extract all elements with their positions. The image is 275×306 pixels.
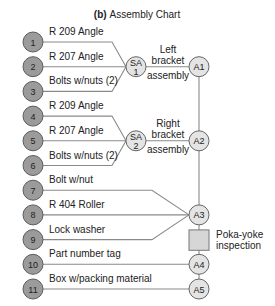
component-number: 10 (28, 260, 38, 270)
chart-title: (b)Assembly Chart (94, 9, 181, 20)
assembly-a4: A4 (189, 254, 209, 274)
component-number: 4 (30, 112, 35, 122)
assembly-label: A4 (193, 260, 204, 270)
component-number: 8 (30, 210, 35, 220)
component-number: 11 (28, 285, 37, 295)
poka-yoke-inspection: Poka-yokeinspection (189, 229, 264, 251)
subassembly-sa2: SA2Rightbracketassembly (126, 118, 189, 155)
component-4: 4R 209 Angle (23, 100, 104, 126)
component-1: 1R 209 Angle (23, 26, 104, 52)
chart-title-text: Assembly Chart (110, 9, 181, 20)
subassembly-caption-line: Left (160, 44, 177, 55)
chart-title-prefix: (b) (94, 9, 107, 20)
component-6: 6Bolts w/nuts (2) (23, 150, 118, 176)
component-label: R 207 Angle (49, 125, 104, 136)
component-2: 2R 207 Angle (23, 51, 104, 77)
subassembly-caption-line: bracket (152, 55, 185, 66)
subassembly-caption-line: bracket (152, 129, 185, 140)
component-number: 5 (30, 136, 35, 146)
component-label: Bolts w/nuts (2) (49, 75, 118, 86)
assembly-label: A3 (193, 210, 204, 220)
subassembly-label-line2: 2 (133, 141, 138, 151)
component-5: 5R 207 Angle (23, 125, 104, 151)
component-11: 11Box w/packing material (23, 273, 152, 299)
component-number: 9 (30, 235, 35, 245)
component-label: Lock washer (49, 224, 106, 235)
assembly-a1: A1 (189, 57, 209, 77)
component-label: R 207 Angle (49, 51, 104, 62)
component-10: 10Part number tag (23, 248, 121, 274)
assembly-chart: (b)Assembly Chart 1R 209 Angle2R 207 Ang… (0, 0, 275, 306)
assembly-label: A1 (193, 62, 204, 72)
inspection-label-line1: Poka-yoke (216, 229, 264, 240)
component-label: Bolt w/nut (49, 174, 93, 185)
inspection-box (189, 230, 209, 250)
component-label: R 209 Angle (49, 26, 104, 37)
component-7: 7Bolt w/nut (23, 174, 93, 200)
component-label: Box w/packing material (49, 273, 152, 284)
component-8: 8R 404 Roller (23, 199, 105, 225)
assembly-a2: A2 (189, 131, 209, 151)
assembly-label: A2 (193, 136, 204, 146)
assembly-a3: A3 (189, 205, 209, 225)
component-label: Part number tag (49, 248, 121, 259)
component-number: 6 (30, 161, 35, 171)
inspection-label-line2: inspection (216, 240, 261, 251)
assembly-label: A5 (193, 285, 204, 295)
component-number: 1 (30, 38, 35, 48)
component-label: R 404 Roller (49, 199, 105, 210)
component-label: R 209 Angle (49, 100, 104, 111)
component-9: 9Lock washer (23, 224, 106, 250)
subassembly-label-line2: 1 (133, 67, 138, 77)
subassembly-sa1: SA1Leftbracketassembly (126, 44, 189, 81)
component-number: 7 (30, 186, 35, 196)
assembly-a5: A5 (189, 279, 209, 299)
component-3: 3Bolts w/nuts (2) (23, 75, 118, 101)
subassembly-caption-line: Right (156, 118, 180, 129)
component-number: 3 (30, 87, 35, 97)
subassembly-caption-line: assembly (147, 144, 189, 155)
component-label: Bolts w/nuts (2) (49, 150, 118, 161)
component-number: 2 (30, 62, 35, 72)
subassembly-caption-line: assembly (147, 70, 189, 81)
